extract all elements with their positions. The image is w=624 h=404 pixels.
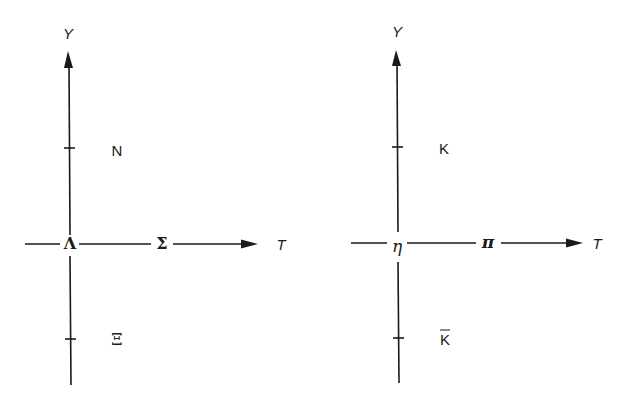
right-y-axis-upper (397, 60, 398, 232)
right-upper-label: K (439, 141, 449, 156)
left-lower-label: Ξ (111, 332, 122, 348)
right-y-axis-label: Y (392, 24, 402, 39)
left-axis-point-label: Σ (156, 236, 167, 252)
right-lower-label-antikaon: K (440, 332, 450, 347)
left-origin-label: Λ (64, 236, 76, 252)
left-y-arrowhead-icon (64, 51, 73, 68)
right-y-axis-lower (398, 262, 399, 383)
left-t-axis-label: T (276, 237, 285, 252)
right-t-axis-label: T (592, 236, 601, 251)
right-t-arrowhead-icon (566, 239, 583, 248)
right-y-arrowhead-icon (392, 50, 401, 66)
left-upper-label: N (112, 143, 123, 158)
right-axis-point-label: π (482, 234, 494, 251)
left-y-axis-lower (70, 256, 71, 385)
right-origin-label: η (392, 238, 402, 255)
diagram-canvas (0, 0, 624, 404)
left-t-arrowhead-icon (241, 240, 258, 249)
left-y-axis-label: Y (63, 26, 73, 41)
